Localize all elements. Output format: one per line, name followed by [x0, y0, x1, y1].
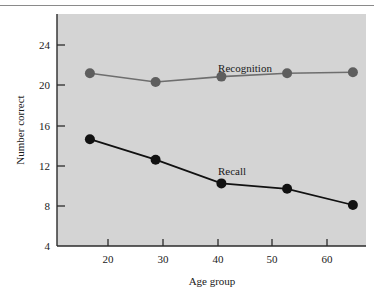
recall-point-20: [85, 134, 95, 144]
y-tick-label-16: 16: [39, 120, 51, 132]
recognition-point-20: [85, 68, 95, 78]
plot-area-background: [57, 14, 366, 246]
recall-point-40: [216, 178, 226, 188]
figure-container: 24 20 16 12 8 4 20 30 40 50 60 Age group…: [0, 0, 374, 296]
x-tick-label-40: 40: [213, 253, 225, 265]
recall-series-label: Recall: [218, 165, 246, 177]
recall-point-50: [282, 184, 292, 194]
x-tick-label-60: 60: [322, 253, 334, 265]
x-tick-label-20: 20: [103, 253, 115, 265]
y-tick-label-20: 20: [39, 79, 51, 91]
recognition-point-50: [282, 68, 292, 78]
y-axis-tick-labels: 24 20 16 12 8 4: [39, 39, 51, 252]
recognition-series-label: Recognition: [218, 62, 272, 74]
x-axis-tick-labels: 20 30 40 50 60: [103, 253, 334, 265]
y-tick-label-4: 4: [45, 240, 51, 252]
recognition-point-30: [151, 77, 161, 87]
recall-point-60: [348, 200, 358, 210]
recognition-point-60: [348, 67, 358, 77]
line-chart: 24 20 16 12 8 4 20 30 40 50 60 Age group…: [0, 0, 374, 296]
y-tick-label-12: 12: [39, 160, 50, 172]
x-tick-label-30: 30: [158, 253, 170, 265]
y-tick-label-24: 24: [39, 39, 51, 51]
recall-point-30: [151, 155, 161, 165]
x-axis-title: Age group: [189, 275, 236, 287]
y-axis-title: Number correct: [14, 95, 26, 164]
y-tick-label-8: 8: [45, 200, 51, 212]
x-tick-label-50: 50: [267, 253, 279, 265]
